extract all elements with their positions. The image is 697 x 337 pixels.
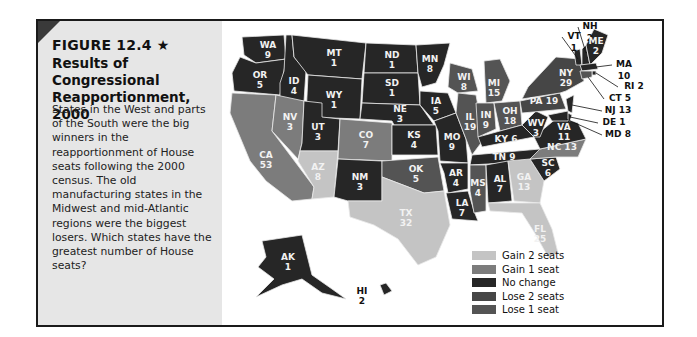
- state-label-tx: TX: [399, 208, 412, 218]
- state-seats-mo: 9: [449, 142, 455, 152]
- legend-swatch: [472, 251, 496, 260]
- state-seats-tx: 32: [400, 218, 413, 228]
- state-label-ca: CA: [259, 150, 273, 160]
- state-ak: [256, 235, 346, 299]
- callout-line-nj: [572, 105, 602, 111]
- state-seats-ut: 3: [315, 132, 321, 142]
- state-seats-in: 9: [483, 120, 489, 130]
- state-label-oh: OH: [502, 106, 517, 116]
- state-label-tn: TN 9: [492, 152, 515, 162]
- state-label-ar: AR: [449, 168, 463, 178]
- state-label-nv: NV: [283, 112, 298, 122]
- state-seats-id: 4: [291, 86, 297, 96]
- state-seats-il: 19: [464, 122, 477, 132]
- legend-label: No change: [502, 277, 556, 288]
- legend-label: Lose 1 seat: [502, 304, 559, 315]
- state-label-nm: NM: [352, 172, 369, 182]
- callout-line-ma: [596, 65, 612, 67]
- state-label-ky: KY 6: [495, 134, 518, 144]
- figure-frame: FIGURE 12.4 ★ Results of Congressional R…: [36, 19, 664, 327]
- legend-item-none: No change: [472, 276, 564, 289]
- state-label-id: ID: [289, 76, 300, 86]
- state-ct: [580, 71, 592, 79]
- state-label-pa: PA 19: [530, 96, 558, 106]
- state-label-hi: HI: [357, 286, 368, 296]
- state-seats-ks: 4: [411, 140, 417, 150]
- state-label-il: IL: [465, 112, 474, 122]
- state-seats-wy: 1: [331, 100, 337, 110]
- legend-swatch: [472, 265, 496, 274]
- state-label-co: CO: [359, 130, 374, 140]
- legend-label: Gain 2 seats: [502, 250, 564, 261]
- figure-caption: States in the West and parts of the Sout…: [52, 103, 212, 273]
- state-label-mo: MO: [444, 132, 461, 142]
- state-seats-mi: 15: [488, 88, 501, 98]
- state-label-mi: MI: [488, 78, 500, 88]
- state-seats-wa: 9: [265, 50, 271, 60]
- state-label-ri: RI 2: [624, 81, 644, 91]
- state-label-wi: WI: [457, 72, 470, 82]
- state-label-nh: NH: [582, 21, 597, 31]
- state-seats-co: 7: [363, 140, 369, 150]
- state-label-md: MD 8: [605, 129, 631, 139]
- figure-number: FIGURE 12.4 ★: [52, 37, 169, 53]
- state-label-mn: MN: [422, 54, 439, 64]
- state-label-or: OR: [253, 70, 268, 80]
- state-label-ms: MS: [470, 178, 485, 188]
- state-seats-wv: 3: [533, 128, 539, 138]
- state-label-nj: NJ 13: [605, 105, 632, 115]
- state-label-ma: MA: [616, 59, 632, 69]
- state-label-fl: FL: [534, 224, 546, 234]
- state-seats-sd: 1: [389, 88, 395, 98]
- state-label-nc: NC 13: [547, 142, 577, 152]
- legend-item-gain1: Gain 1 seat: [472, 263, 564, 276]
- state-label-ak: AK: [281, 252, 296, 262]
- state-seats-or: 5: [257, 80, 263, 90]
- legend-item-lose2: Lose 2 seats: [472, 290, 564, 303]
- state-label-wv: WV: [528, 118, 545, 128]
- state-ny: [522, 57, 584, 99]
- legend-item-gain2: Gain 2 seats: [472, 249, 564, 262]
- state-seats-oh: 18: [504, 116, 517, 126]
- state-label-ks: KS: [407, 130, 420, 140]
- state-md: [548, 111, 568, 121]
- legend-swatch: [472, 292, 496, 301]
- state-label-al: AL: [494, 174, 507, 184]
- state-label-la: LA: [456, 198, 469, 208]
- state-hi: [380, 283, 392, 295]
- state-label-ga: GA: [517, 172, 531, 182]
- state-seats-ar: 4: [453, 178, 459, 188]
- state-seats-ok: 5: [413, 174, 419, 184]
- state-label-ia: IA: [431, 96, 441, 106]
- state-seats-ne: 3: [397, 114, 403, 124]
- state-label-ne: NE: [393, 104, 407, 114]
- state-seats-ak: 1: [285, 262, 291, 272]
- state-seats-az: 8: [315, 172, 321, 182]
- state-seats-mn: 8: [427, 64, 433, 74]
- state-label-mt: MT: [326, 48, 342, 58]
- state-seats-ny: 29: [560, 78, 573, 88]
- state-label-az: AZ: [311, 162, 325, 172]
- callout-line-ct: [588, 77, 604, 99]
- callout-line-ri: [596, 73, 618, 87]
- state-label-nd: ND: [384, 50, 399, 60]
- state-seats-nm: 3: [357, 182, 363, 192]
- state-seats-wi: 8: [461, 82, 467, 92]
- state-seats-nd: 1: [389, 60, 395, 70]
- state-label-de: DE 1: [602, 117, 625, 127]
- state-seats-ma: 10: [618, 71, 631, 81]
- state-seats-ga: 13: [518, 182, 531, 192]
- state-label-wy: WY: [326, 90, 343, 100]
- state-seats-nv: 3: [287, 122, 293, 132]
- state-label-va: VA: [557, 122, 570, 132]
- state-label-me: ME: [588, 36, 603, 46]
- state-seats-fl: 25: [534, 234, 547, 244]
- state-seats-mt: 1: [331, 58, 337, 68]
- state-label-sc: SC: [541, 158, 554, 168]
- state-label-in: IN: [481, 110, 492, 120]
- legend-label: Gain 1 seat: [502, 264, 559, 275]
- state-nj: [566, 95, 574, 113]
- legend-label: Lose 2 seats: [502, 291, 564, 302]
- state-seats-la: 7: [459, 208, 465, 218]
- figure-sidebar: FIGURE 12.4 ★ Results of Congressional R…: [38, 21, 222, 325]
